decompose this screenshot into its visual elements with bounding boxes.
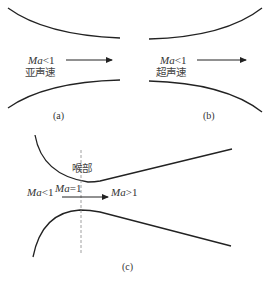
outlet-mach-label: Ma>1 [110, 186, 137, 198]
panel-a: Ma<1 亚声速 (a) [8, 8, 120, 122]
nozzle-diagram: Ma<1 亚声速 (a) Ma<1 超声速 (b) 喉部 Ma<1 Ma=1 M… [0, 0, 269, 286]
mach-label: Ma<1 [159, 54, 186, 66]
upper-wall [35, 135, 232, 182]
panel-c: 喉部 Ma<1 Ma=1 Ma>1 (c) [26, 135, 232, 273]
panel-b: Ma<1 超声速 (b) [149, 8, 262, 122]
panel-caption: (a) [53, 110, 64, 122]
throat-mach-label: Ma=1 [54, 182, 81, 194]
flow-regime-label: 亚声速 [25, 66, 56, 78]
lower-wall [33, 210, 231, 257]
upper-wall [8, 8, 120, 38]
panel-caption: (b) [203, 110, 215, 122]
inlet-mach-label: Ma<1 [26, 186, 53, 198]
flow-regime-label: 超声速 [156, 66, 187, 78]
throat-label: 喉部 [72, 162, 92, 174]
lower-wall [149, 81, 262, 112]
upper-wall [149, 8, 262, 39]
lower-wall [8, 80, 120, 108]
mach-label: Ma<1 [27, 54, 54, 66]
panel-caption: (c) [122, 261, 133, 273]
